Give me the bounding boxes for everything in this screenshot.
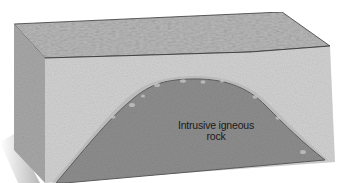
block-diagram [0,0,346,183]
label-line-2: rock [150,131,282,142]
intrusive-igneous-rock-label: Intrusive igneous rock [150,120,282,142]
